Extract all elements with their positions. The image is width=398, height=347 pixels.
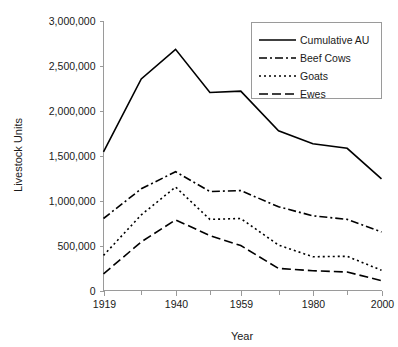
x-tick-label: 1940 (165, 298, 189, 310)
y-tick-label: 1,000,000 (49, 195, 96, 207)
x-axis-title: Year (231, 330, 254, 342)
x-tick-label: 2000 (371, 298, 395, 310)
y-axis-title: Livestock Units (12, 118, 24, 192)
y-tick-label: 2,000,000 (49, 105, 96, 117)
x-axis-tick-labels: 19191940195919802000 (93, 298, 395, 310)
y-tick-label: 500,000 (58, 240, 96, 252)
series-line-ewes (104, 220, 382, 281)
legend-label-goats: Goats (300, 70, 328, 82)
y-tick-label: 0 (90, 285, 96, 297)
x-axis-ticks (105, 291, 383, 296)
y-tick-label: 3,000,000 (49, 15, 96, 27)
legend-label-ewes: Ewes (300, 88, 326, 100)
x-tick-label: 1919 (93, 298, 117, 310)
legend-label-beef-cows: Beef Cows (300, 52, 351, 64)
legend-label-cumulative-au: Cumulative AU (300, 34, 369, 46)
y-axis-ticks (100, 22, 104, 292)
y-tick-label: 2,500,000 (49, 60, 96, 72)
y-axis-tick-labels: 0500,0001,000,0001,500,0002,000,0002,500… (49, 15, 96, 297)
y-tick-label: 1,500,000 (49, 150, 96, 162)
livestock-units-line-chart: 0500,0001,000,0001,500,0002,000,0002,500… (0, 0, 398, 347)
series-line-goats (104, 187, 382, 270)
chart-legend: Cumulative AUBeef CowsGoatsEwes (252, 23, 382, 100)
x-tick-label: 1959 (230, 298, 254, 310)
series-line-beef-cows (104, 172, 382, 232)
x-tick-label: 1980 (302, 298, 326, 310)
